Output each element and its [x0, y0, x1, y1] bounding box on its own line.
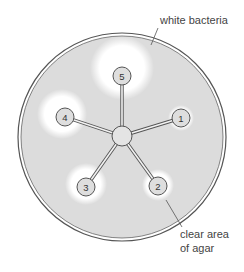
disc-number-label: 4	[62, 112, 67, 123]
disc-number-label: 5	[119, 71, 124, 82]
white-bacteria-label: white bacteria	[159, 14, 229, 26]
disc-number-label: 1	[178, 113, 183, 124]
clear-area-label-line-1: clear area	[180, 228, 230, 240]
agar-plate-diagram: 12345 white bacteria clear area of agar	[0, 0, 244, 272]
antibiotic-disc-1: 1	[172, 109, 190, 127]
white-bacteria-label-line-1: white bacteria	[159, 14, 229, 26]
central-hub	[112, 126, 132, 146]
clear-area-label-line-2: of agar	[180, 242, 215, 254]
antibiotic-disc-2: 2	[149, 177, 167, 195]
disc-number-label: 2	[155, 181, 160, 192]
antibiotic-disc-3: 3	[77, 178, 95, 196]
clear-area-of-agar-label: clear area of agar	[180, 228, 232, 254]
disc-number-label: 3	[83, 182, 88, 193]
antibiotic-disc-4: 4	[56, 108, 74, 126]
antibiotic-disc-5: 5	[113, 67, 131, 85]
